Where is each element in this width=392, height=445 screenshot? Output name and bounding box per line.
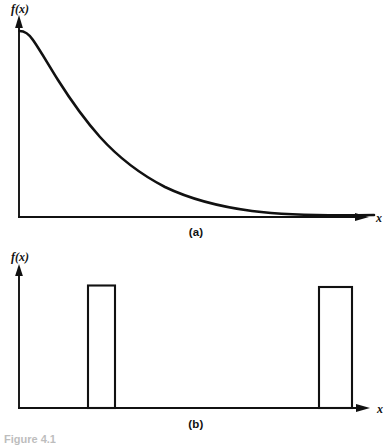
panel-a-caption: (a) (0, 226, 392, 238)
panel-b-pulse-2 (319, 287, 352, 408)
figure-number-cropped: Figure 4.1 (4, 434, 204, 445)
panel-b-pulse-1 (88, 286, 115, 409)
panel-b: f(x) x (0, 240, 392, 445)
panel-a: f(x) x (0, 0, 392, 240)
panel-b-x-axis-label: x (376, 402, 383, 416)
panel-a-density-curve (20, 31, 375, 215)
panel-b-caption: (b) (0, 418, 392, 430)
figure-sheet: f(x) x (a) f(x) x (b) Figure 4.1 (0, 0, 392, 445)
panel-a-x-axis-label: x (375, 211, 382, 225)
panel-a-y-axis-arrowhead (15, 15, 23, 28)
panel-a-plot: f(x) x (0, 0, 392, 240)
panel-b-x-axis-arrowhead (356, 404, 370, 412)
panel-b-y-axis-label: f(x) (11, 250, 29, 264)
panel-a-y-axis-label: f(x) (11, 2, 29, 16)
panel-b-y-axis-arrowhead (15, 264, 23, 276)
panel-b-plot: f(x) x (0, 240, 392, 425)
